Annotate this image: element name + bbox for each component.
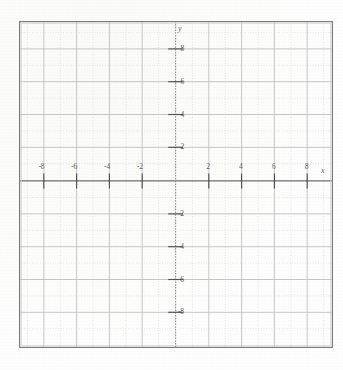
y-tick-label-8: 8 — [181, 44, 185, 53]
x-tick-label--2: -2 — [137, 162, 143, 171]
x-tick-label--6: -6 — [71, 162, 77, 171]
y-axis-label: y — [178, 24, 182, 33]
y-tick-label-6: 6 — [181, 77, 185, 86]
x-tick-label--4: -4 — [104, 162, 110, 171]
x-axis-label: x — [321, 166, 325, 175]
y-tick-label--2: -2 — [178, 209, 184, 218]
y-tick-label-4: 4 — [181, 110, 185, 119]
x-tick-label-6: 6 — [272, 162, 276, 171]
grid-and-axes — [19, 21, 333, 348]
y-tick-label--8: -8 — [178, 307, 184, 316]
x-tick-label-8: 8 — [305, 162, 309, 171]
coordinate-plane: -8 -6 -4 -2 2 4 6 8 8 6 4 2 -2 -4 -6 -8 … — [19, 21, 333, 348]
y-tick-label--4: -4 — [178, 242, 184, 251]
x-tick-label-2: 2 — [206, 162, 210, 171]
y-tick-label-2: 2 — [181, 142, 185, 151]
x-tick-label-4: 4 — [239, 162, 243, 171]
graph-canvas: -8 -6 -4 -2 2 4 6 8 8 6 4 2 -2 -4 -6 -8 … — [0, 0, 343, 370]
y-tick-label--6: -6 — [178, 275, 184, 284]
x-tick-label--8: -8 — [39, 162, 45, 171]
